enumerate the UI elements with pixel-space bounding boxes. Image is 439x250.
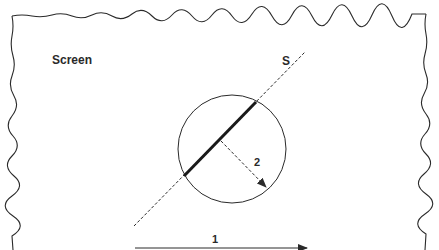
screen-frame-right — [418, 14, 433, 250]
circle-region — [178, 95, 286, 203]
diagram-canvas — [0, 0, 439, 250]
thick-chord-segment — [184, 102, 256, 176]
screen-frame-left — [5, 16, 20, 250]
screen-frame-top — [12, 4, 426, 28]
arrow-2-label: 2 — [254, 157, 260, 168]
arrow-1-label: 1 — [212, 234, 218, 245]
line-s-label: S — [282, 55, 290, 67]
screen-label: Screen — [52, 54, 92, 66]
